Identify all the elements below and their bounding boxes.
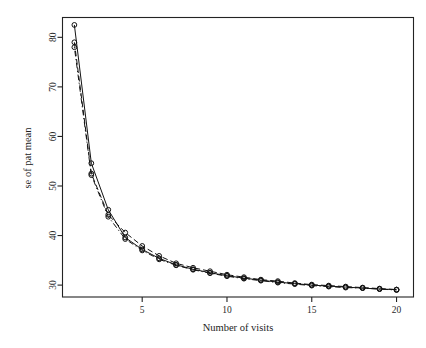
y-tick-label: 60 — [48, 131, 58, 141]
x-tick-label: 15 — [307, 305, 317, 315]
y-axis-label: se of pat mean — [22, 127, 33, 189]
y-tick-label: 40 — [48, 231, 58, 241]
chart-background — [0, 0, 426, 348]
se-of-pat-mean-line-chart: 304050607080 5101520 Number of visits se… — [0, 0, 426, 348]
y-tick-label: 80 — [48, 32, 58, 42]
x-axis-label: Number of visits — [203, 322, 274, 333]
x-tick-label: 20 — [392, 305, 402, 315]
y-tick-label: 70 — [48, 82, 58, 92]
x-tick-label: 10 — [222, 305, 232, 315]
chart-figure: 304050607080 5101520 Number of visits se… — [0, 0, 426, 348]
y-tick-label: 30 — [48, 280, 58, 290]
x-tick-label: 5 — [140, 305, 145, 315]
y-tick-label: 50 — [48, 181, 58, 191]
